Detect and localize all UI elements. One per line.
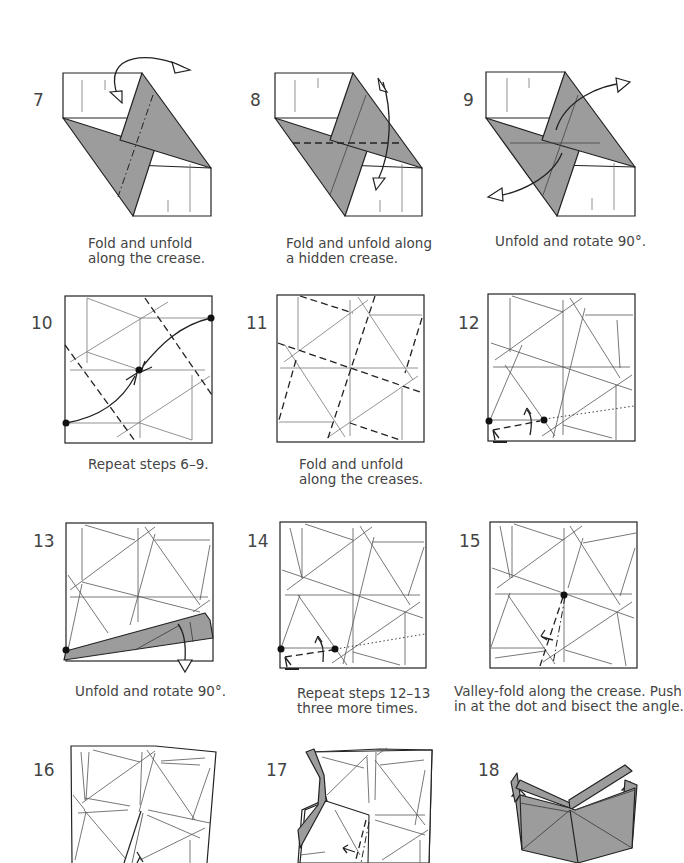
step-18-diagram bbox=[0, 0, 669, 863]
